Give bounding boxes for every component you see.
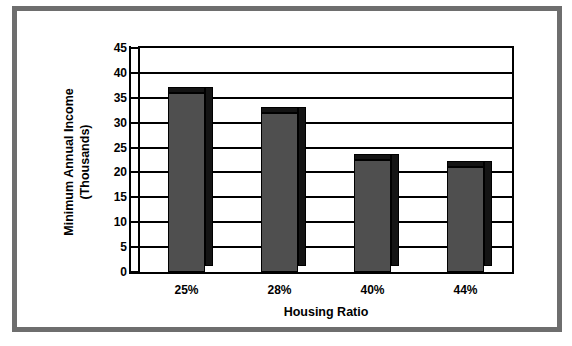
bar-side-face xyxy=(298,107,306,266)
y-axis-tick xyxy=(131,122,140,124)
y-axis-tick xyxy=(131,271,140,273)
y-axis-tick xyxy=(131,97,140,99)
y-axis-tick xyxy=(131,171,140,173)
x-axis-tick-label: 40% xyxy=(360,283,384,297)
bar-front-face xyxy=(168,93,205,272)
y-axis-tick-label: 30 xyxy=(87,116,127,130)
y-axis-tick xyxy=(131,47,140,49)
bar-side-face xyxy=(484,161,492,266)
y-axis-tick-label: 40 xyxy=(87,66,127,80)
bar-side-face xyxy=(391,154,399,266)
y-axis-title-line-2: (Thousands) xyxy=(77,125,93,200)
gridline xyxy=(140,72,512,74)
bar-side-face xyxy=(205,87,213,266)
y-axis-tick-label: 5 xyxy=(87,240,127,254)
chart-figure: Minimum Annual Income (Thousands) 454035… xyxy=(0,0,572,346)
y-axis-tick-label: 35 xyxy=(87,91,127,105)
y-axis-tick-label: 10 xyxy=(87,215,127,229)
y-axis-tick xyxy=(131,147,140,149)
bar[interactable]: 44% xyxy=(447,167,484,272)
y-axis-title-line-1: Minimum Annual Income xyxy=(61,88,77,235)
y-axis-tick-label: 20 xyxy=(87,165,127,179)
y-axis-tick xyxy=(131,246,140,248)
y-axis-tick-label: 15 xyxy=(87,190,127,204)
y-axis-tick xyxy=(131,72,140,74)
bar-chart: Minimum Annual Income (Thousands) 454035… xyxy=(17,11,567,337)
bar[interactable]: 28% xyxy=(261,113,298,272)
bar-front-face xyxy=(354,160,391,272)
x-axis-title: Housing Ratio xyxy=(138,305,514,319)
figure-border-frame: Minimum Annual Income (Thousands) 454035… xyxy=(12,6,562,332)
y-axis-tick-label: 45 xyxy=(87,41,127,55)
y-axis-tick xyxy=(131,196,140,198)
bar-front-face xyxy=(261,113,298,272)
x-axis-tick-label: 44% xyxy=(453,283,477,297)
y-axis-tick-label: 0 xyxy=(87,265,127,279)
axis-depth-line xyxy=(129,46,131,274)
plot-area: 454035302520151050 25%28%40%44% xyxy=(138,46,514,274)
bar[interactable]: 25% xyxy=(168,93,205,272)
y-axis-tick-label: 25 xyxy=(87,141,127,155)
figure-canvas: Minimum Annual Income (Thousands) 454035… xyxy=(17,11,557,327)
bar-front-face xyxy=(447,167,484,272)
x-axis-tick-label: 25% xyxy=(174,283,198,297)
x-axis-tick-label: 28% xyxy=(267,283,291,297)
bar[interactable]: 40% xyxy=(354,160,391,272)
y-axis-tick xyxy=(131,221,140,223)
